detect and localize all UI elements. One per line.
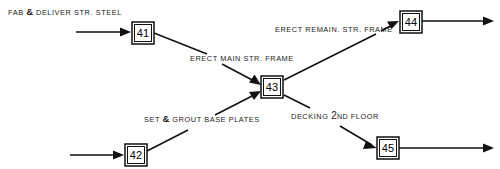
activity-label-set-grout-base-plates: SET & GROUT BASE PLATES (144, 113, 260, 124)
edge-line-43-44-lower (284, 34, 376, 80)
node-label-41: 41 (132, 22, 154, 44)
edge-inbound-to-41 (76, 28, 131, 37)
arrow-head-42-43 (249, 91, 261, 100)
activity-text-part: ERECT REMAIN. STR. FRAME (275, 25, 393, 34)
node-label-45: 45 (377, 137, 399, 159)
arrow-head-43-45 (363, 141, 377, 149)
activity-text-part: ERECT MAIN STR. FRAME (190, 54, 294, 63)
activity-text-part: DELIVER STR. STEEL (33, 8, 122, 17)
edge-outbound-from-45 (399, 144, 494, 153)
edge-line-41-43-upper (154, 33, 207, 54)
activity-text-part: GROUT BASE PLATES (170, 115, 260, 124)
edge-inbound-to-42 (70, 151, 124, 160)
arrow-head-inbound-41 (120, 28, 131, 37)
activity-label-erect-remain-str-frame: ERECT REMAIN. STR. FRAME (275, 25, 393, 34)
activity-text-part: FAB (8, 8, 26, 17)
node-label-44: 44 (400, 11, 422, 33)
arrow-head-inbound-42 (113, 151, 124, 160)
node-label-42: 42 (125, 144, 147, 166)
activity-label-decking-2nd-floor: DECKING 2ND FLOOR (291, 110, 379, 121)
ampersand-glyph: & (163, 113, 170, 124)
edge-line-41-43-lower (222, 64, 256, 82)
edge-line-43-45-upper (284, 95, 310, 108)
activity-label-fab-deliver-str-steel: FAB & DELIVER STR. STEEL (8, 6, 122, 17)
edge-line-42-43-lower (147, 130, 188, 151)
activity-text-part: DECKING (291, 112, 331, 121)
activity-label-erect-main-str-frame: ERECT MAIN STR. FRAME (190, 54, 294, 63)
edge-outbound-from-44 (422, 17, 494, 26)
ordinal-suffix: ND (337, 112, 348, 121)
node-label-43: 43 (261, 76, 283, 98)
activity-text-part: FLOOR (348, 112, 379, 121)
diagram-canvas (0, 0, 500, 169)
arrow-head-outbound-44 (483, 17, 494, 26)
arrow-head-outbound-45 (483, 144, 494, 153)
network-diagram: 41 42 43 44 45 FAB & DELIVER STR. STEEL … (0, 0, 500, 169)
edge-43-to-45 (284, 95, 377, 149)
edge-line-42-43-upper (215, 94, 256, 115)
activity-text-part: SET (144, 115, 163, 124)
